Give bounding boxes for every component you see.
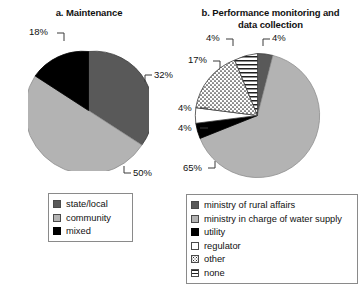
chart-a-legend: state/local community mixed [48, 193, 133, 242]
legend-label-regulator: regulator [204, 241, 241, 251]
chart-a-title: a. Maintenance [0, 7, 178, 19]
dotted-swatch-icon [191, 255, 199, 263]
dark-gray-swatch-icon [191, 201, 199, 209]
chart-b-label-4-utility: 4% [178, 122, 192, 133]
legend-label-utility: utility [204, 227, 225, 237]
legend-label-ministry-water-supply: ministry in charge of water supply [204, 214, 342, 224]
dark-gray-swatch-icon [53, 200, 61, 208]
chart-panel-performance-monitoring: b. Performance monitoring and data colle… [178, 0, 363, 298]
chart-b-label-17-other: 17% [188, 54, 207, 65]
black-swatch-icon [53, 227, 61, 235]
chart-b-label-4-ministry-rural-affairs: 4% [272, 32, 286, 43]
legend-item-none: none [191, 266, 352, 279]
legend-label-ministry-rural-affairs: ministry of rural affairs [204, 200, 295, 210]
chart-a-label-50: 50% [133, 167, 152, 178]
pie-a-svg [28, 50, 149, 171]
chart-panel-maintenance: a. Maintenance 18% 32% 50% state/local c… [0, 0, 178, 298]
legend-label-other: other [204, 254, 225, 264]
legend-item-ministry-rural-affairs: ministry of rural affairs [191, 199, 352, 212]
pie-chart-b [194, 52, 321, 179]
chart-b-label-4-none: 4% [206, 32, 220, 43]
black-swatch-icon [191, 228, 199, 236]
chart-b-title: b. Performance monitoring and data colle… [178, 7, 363, 30]
legend-item-utility: utility [191, 226, 352, 239]
legend-item-mixed: mixed [53, 225, 127, 238]
chart-b-legend: ministry of rural affairs ministry in ch… [186, 194, 358, 284]
light-gray-swatch-icon [191, 215, 199, 223]
legend-item-other: other [191, 253, 352, 266]
chart-b-title-line2: data collection [178, 19, 363, 31]
legend-label-none: none [204, 268, 225, 278]
legend-label-mixed: mixed [66, 226, 91, 236]
white-swatch-icon [191, 242, 199, 250]
chart-b-title-line1: b. Performance monitoring and [178, 7, 363, 19]
legend-item-regulator: regulator [191, 239, 352, 252]
legend-item-ministry-water-supply: ministry in charge of water supply [191, 212, 352, 225]
chart-a-label-18: 18% [29, 26, 48, 37]
pie-chart-a [28, 50, 149, 171]
chart-b-label-4-regulator: 4% [178, 102, 192, 113]
light-gray-swatch-icon [53, 214, 61, 222]
chart-a-label-32: 32% [154, 69, 173, 80]
legend-item-state-local: state/local [53, 198, 127, 211]
pie-b-svg [194, 52, 321, 179]
chart-b-label-65-ministry-water-supply: 65% [183, 162, 202, 173]
striped-swatch-icon [191, 269, 199, 277]
legend-item-community: community [53, 211, 127, 224]
legend-label-state-local: state/local [66, 199, 108, 209]
legend-label-community: community [66, 213, 111, 223]
